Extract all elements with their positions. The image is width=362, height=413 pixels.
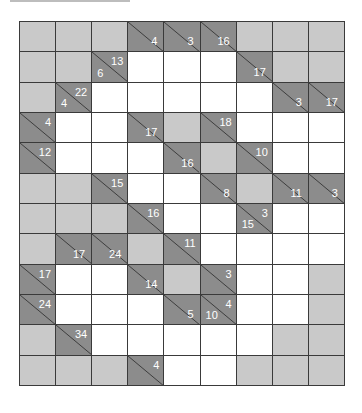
down-clue: 17 (73, 249, 85, 260)
entry-cell[interactable] (164, 356, 199, 385)
across-clue: 11 (184, 238, 195, 249)
blocked-cell (164, 113, 199, 142)
entry-cell[interactable] (128, 295, 163, 324)
entry-cell[interactable] (237, 234, 272, 263)
entry-cell[interactable] (201, 204, 236, 233)
clue-cell: 224 (56, 83, 91, 112)
entry-cell[interactable] (164, 174, 199, 203)
entry-cell[interactable] (201, 234, 236, 263)
blocked-cell (237, 356, 272, 385)
clue-cell: 17 (56, 234, 91, 263)
entry-cell[interactable] (92, 325, 127, 354)
entry-cell[interactable] (92, 143, 127, 172)
entry-cell[interactable] (164, 52, 199, 81)
entry-cell[interactable] (201, 356, 236, 385)
blocked-cell (273, 356, 308, 385)
blocked-cell (56, 174, 91, 203)
blocked-cell (273, 325, 308, 354)
entry-cell[interactable] (92, 265, 127, 294)
across-clue: 3 (226, 269, 232, 280)
down-clue: 16 (181, 158, 193, 169)
clue-cell: 17 (237, 52, 272, 81)
entry-cell[interactable] (56, 143, 91, 172)
clue-cell: 12 (20, 143, 55, 172)
down-clue: 4 (61, 98, 67, 109)
clue-cell: 410 (201, 295, 236, 324)
entry-cell[interactable] (273, 265, 308, 294)
entry-cell[interactable] (237, 113, 272, 142)
blocked-cell (273, 52, 308, 81)
diagonal-divider (273, 83, 308, 112)
blocked-cell (309, 356, 344, 385)
blocked-cell (201, 143, 236, 172)
clue-cell: 3 (201, 265, 236, 294)
clue-cell: 5 (164, 295, 199, 324)
entry-cell[interactable] (273, 234, 308, 263)
entry-cell[interactable] (237, 265, 272, 294)
clue-cell: 16 (201, 22, 236, 51)
blocked-cell (56, 204, 91, 233)
entry-cell[interactable] (309, 234, 344, 263)
down-clue: 16 (217, 36, 229, 47)
blocked-cell (237, 174, 272, 203)
blocked-cell (309, 22, 344, 51)
blocked-cell (20, 356, 55, 385)
entry-cell[interactable] (273, 143, 308, 172)
blocked-cell (20, 22, 55, 51)
across-clue: 4 (226, 299, 232, 310)
entry-cell[interactable] (273, 204, 308, 233)
down-clue: 17 (254, 67, 266, 78)
blocked-cell (20, 204, 55, 233)
entry-cell[interactable] (92, 83, 127, 112)
entry-cell[interactable] (56, 295, 91, 324)
entry-cell[interactable] (237, 83, 272, 112)
clue-cell: 4 (128, 22, 163, 51)
entry-cell[interactable] (128, 325, 163, 354)
entry-cell[interactable] (164, 325, 199, 354)
entry-cell[interactable] (92, 295, 127, 324)
blocked-cell (56, 356, 91, 385)
entry-cell[interactable] (237, 295, 272, 324)
entry-cell[interactable] (56, 113, 91, 142)
entry-cell[interactable] (164, 83, 199, 112)
entry-cell[interactable] (128, 83, 163, 112)
clue-cell: 11 (273, 174, 308, 203)
across-clue: 12 (39, 147, 51, 158)
entry-cell[interactable] (128, 52, 163, 81)
across-clue: 4 (153, 360, 159, 371)
blocked-cell (309, 325, 344, 354)
clue-cell: 8 (201, 174, 236, 203)
entry-cell[interactable] (309, 113, 344, 142)
entry-cell[interactable] (128, 174, 163, 203)
entry-cell[interactable] (56, 265, 91, 294)
across-clue: 3 (262, 208, 268, 219)
across-clue: 24 (39, 299, 51, 310)
entry-cell[interactable] (92, 113, 127, 142)
clue-cell: 11 (164, 234, 199, 263)
entry-cell[interactable] (201, 83, 236, 112)
blocked-cell (56, 22, 91, 51)
down-clue: 10 (206, 310, 218, 321)
across-clue: 34 (75, 329, 87, 340)
clue-cell: 4 (20, 113, 55, 142)
entry-cell[interactable] (201, 52, 236, 81)
clue-cell: 136 (92, 52, 127, 81)
clue-cell: 315 (237, 204, 272, 233)
blocked-cell (309, 265, 344, 294)
entry-cell[interactable] (273, 295, 308, 324)
blocked-cell (20, 234, 55, 263)
entry-cell[interactable] (164, 204, 199, 233)
clue-cell: 24 (20, 295, 55, 324)
diagonal-divider (201, 174, 236, 203)
entry-cell[interactable] (309, 204, 344, 233)
down-clue: 17 (145, 127, 157, 138)
down-clue: 17 (326, 97, 338, 108)
diagonal-divider (309, 174, 344, 203)
clue-cell: 3 (309, 174, 344, 203)
top-edge-bar (10, 0, 130, 2)
entry-cell[interactable] (201, 325, 236, 354)
entry-cell[interactable] (309, 143, 344, 172)
entry-cell[interactable] (273, 113, 308, 142)
entry-cell[interactable] (128, 143, 163, 172)
entry-cell[interactable] (237, 325, 272, 354)
